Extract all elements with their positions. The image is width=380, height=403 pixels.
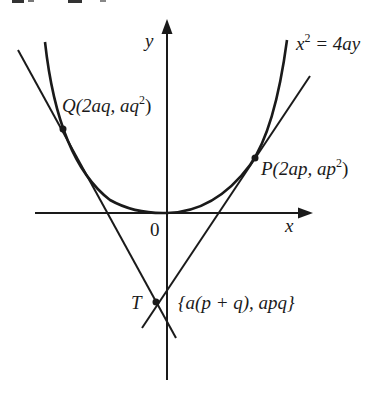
y-axis (162, 19, 173, 380)
x-axis-label: x (284, 215, 294, 236)
origin-label: 0 (150, 219, 160, 240)
y-axis-arrow-icon (162, 19, 173, 34)
point-q-label: Q(2aq, aq2) (62, 93, 151, 117)
x-axis-arrow-icon (298, 208, 313, 219)
point-p-label: P(2ap, ap2) (260, 156, 348, 180)
cropped-heading-fragment (12, 0, 106, 3)
parabola-tangent-diagram: y x 0 x2 = 4ay Q(2aq, aq2) P(2ap, ap2) T… (0, 0, 380, 403)
point-t-marker (153, 299, 160, 306)
y-axis-label: y (143, 30, 154, 51)
tangent-line-q (18, 50, 176, 338)
curve-equation-label: x2 = 4ay (295, 31, 361, 54)
point-p-marker (252, 155, 259, 162)
point-t-label: T (131, 292, 143, 313)
point-t-coords: {a(p + q), apq} (178, 292, 295, 314)
point-q-marker (60, 126, 67, 133)
